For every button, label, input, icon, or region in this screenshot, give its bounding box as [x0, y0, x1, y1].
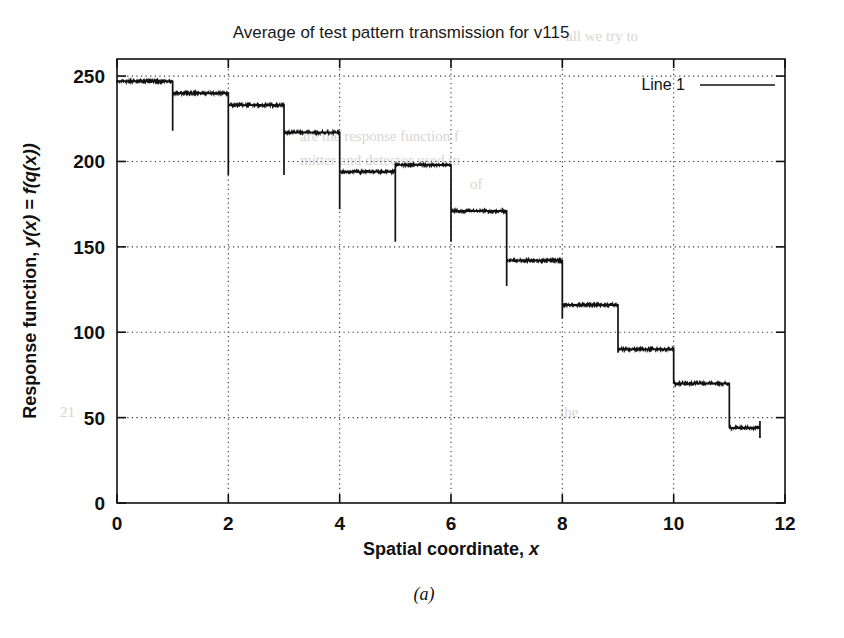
x-tick-label: 4: [334, 513, 345, 534]
y-tick-label: 200: [73, 151, 105, 172]
figure-caption: (a): [414, 584, 435, 605]
grid-lines: [118, 60, 784, 502]
x-tick-label: 10: [663, 513, 684, 534]
x-tick-label: 12: [774, 513, 795, 534]
data-series-line-1: [117, 80, 760, 438]
y-tick-labels: 050100150200250: [73, 66, 105, 514]
y-axis-label: Response function, y(x) = f(q(x)): [20, 143, 40, 419]
x-tick-labels: 024681012: [112, 513, 796, 534]
chart-canvas: Average of test pattern transmission for…: [0, 0, 844, 638]
x-tick-label: 0: [112, 513, 123, 534]
x-axis-label: Spatial coordinate, x: [363, 539, 540, 559]
y-tick-label: 50: [84, 408, 105, 429]
x-tick-label: 8: [557, 513, 568, 534]
y-tick-label: 150: [73, 237, 105, 258]
y-tick-label: 100: [73, 322, 105, 343]
chart-title: Average of test pattern transmission for…: [233, 23, 570, 42]
legend-entry-label: Line 1: [641, 76, 685, 93]
figure-container: all we try toare the response function f…: [0, 0, 844, 638]
x-tick-label: 6: [446, 513, 457, 534]
y-tick-label: 0: [94, 493, 105, 514]
x-tick-label: 2: [223, 513, 234, 534]
legend: Line 1: [641, 76, 775, 93]
y-tick-label: 250: [73, 66, 105, 87]
